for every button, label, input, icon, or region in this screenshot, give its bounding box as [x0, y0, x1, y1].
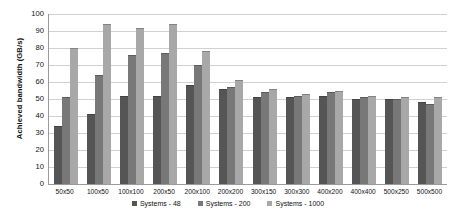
y-tick-label: 0 [14, 180, 44, 188]
bar-group [49, 14, 82, 184]
x-tick-label: 200x50 [148, 186, 181, 198]
bar-group [414, 14, 447, 184]
y-tick-label: 100 [14, 10, 44, 18]
bar [434, 97, 442, 184]
x-tick-label: 400x200 [313, 186, 346, 198]
x-tick-label: 100x100 [114, 186, 147, 198]
x-axis-tick-labels: 50x50100x50100x100200x50200x100200x20030… [48, 186, 446, 198]
bar [360, 97, 368, 184]
y-tick-label: 10 [14, 163, 44, 171]
bar-group [182, 14, 215, 184]
bar [286, 97, 294, 184]
plot-area [48, 14, 447, 185]
bar-group [381, 14, 414, 184]
bar-group [248, 14, 281, 184]
legend-label: Systems - 1000 [275, 200, 324, 207]
legend-swatch-icon [198, 201, 203, 206]
x-tick-label: 300x150 [247, 186, 280, 198]
bar-group [215, 14, 248, 184]
x-tick-label: 200x200 [214, 186, 247, 198]
bar [136, 28, 144, 184]
x-tick-label: 50x50 [48, 186, 81, 198]
bar [161, 53, 169, 184]
bar [385, 99, 393, 184]
legend-item[interactable]: Systems - 1000 [267, 200, 324, 207]
x-tick-label: 500x500 [413, 186, 446, 198]
bar-group [348, 14, 381, 184]
bar [368, 96, 376, 184]
bar [418, 102, 426, 184]
bar [269, 89, 277, 184]
bar [95, 75, 103, 184]
bar [319, 96, 327, 184]
bar [62, 97, 70, 184]
bar-group [149, 14, 182, 184]
bar [253, 97, 261, 184]
bar [426, 104, 434, 184]
bar [194, 65, 202, 184]
chart-legend: Systems - 48Systems - 200Systems - 1000 [0, 200, 456, 207]
legend-label: Systems - 200 [206, 200, 251, 207]
x-tick-label: 200x100 [181, 186, 214, 198]
bar [261, 92, 269, 184]
bar [120, 96, 128, 184]
legend-swatch-icon [267, 201, 272, 206]
bar [202, 51, 210, 184]
bar [335, 91, 343, 185]
x-tick-label: 500x250 [380, 186, 413, 198]
bar-group [314, 14, 347, 184]
bar [186, 85, 194, 184]
bar [103, 24, 111, 184]
bar [169, 24, 177, 184]
bar [70, 48, 78, 184]
bar [327, 92, 335, 184]
bar [54, 126, 62, 184]
bar [227, 87, 235, 184]
x-tick-label: 400x400 [347, 186, 380, 198]
legend-swatch-icon [132, 201, 137, 206]
bar-group [115, 14, 148, 184]
x-tick-label: 100x50 [81, 186, 114, 198]
bar [153, 96, 161, 184]
bar [219, 89, 227, 184]
x-tick-label: 300x300 [280, 186, 313, 198]
bar [294, 96, 302, 184]
bar-group [82, 14, 115, 184]
bar [401, 97, 409, 184]
bar [235, 80, 243, 184]
legend-label: Systems - 48 [140, 200, 181, 207]
bar [87, 114, 95, 184]
bar-groups [49, 14, 447, 184]
bar-group [281, 14, 314, 184]
bar [352, 99, 360, 184]
legend-item[interactable]: Systems - 48 [132, 200, 181, 207]
y-axis-title: Achieved bandwidth (GB/s) [15, 19, 24, 159]
legend-item[interactable]: Systems - 200 [198, 200, 251, 207]
bar [393, 99, 401, 184]
bar [128, 55, 136, 184]
bar [302, 94, 310, 184]
bar-chart: Achieved bandwidth (GB/s) 01020304050607… [0, 0, 456, 224]
